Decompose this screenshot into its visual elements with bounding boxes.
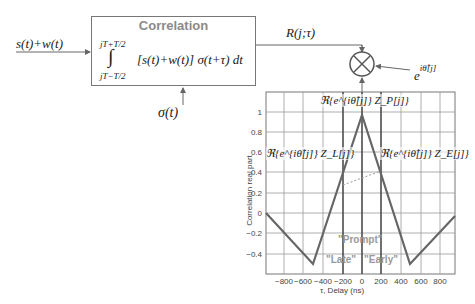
prompt-label: "Prompt" — [338, 234, 382, 245]
late-label: "Late" — [326, 254, 356, 265]
svg-text:−600: −600 — [294, 277, 313, 286]
svg-text:0: 0 — [258, 209, 263, 218]
x-axis-label: τ, Delay (ns) — [320, 286, 364, 295]
svg-text:0: 0 — [360, 277, 365, 286]
output-line — [256, 45, 362, 51]
svg-text:−400: −400 — [314, 277, 333, 286]
y-axis-label: Correlation real part — [245, 136, 254, 246]
svg-text:800: 800 — [433, 277, 447, 286]
early-label: "Early" — [364, 254, 398, 265]
svg-text:200: 200 — [374, 277, 388, 286]
multiplier-icon — [350, 52, 374, 76]
early-equation: ℜ{e^{iθ̂[j]} Z_E[j]} — [380, 147, 469, 160]
svg-text:400: 400 — [394, 277, 408, 286]
prompt-equation: ℜ{e^{iθ̂[j]} Z_P[j]} — [320, 94, 409, 107]
svg-text:−0.4: −0.4 — [246, 250, 262, 259]
phase-arrow — [376, 66, 410, 70]
svg-text:600: 600 — [414, 277, 428, 286]
late-equation: ℜ{e^{iθ̂[j]} Z_L[j]} — [266, 147, 354, 160]
svg-text:1: 1 — [258, 108, 263, 117]
svg-text:−200: −200 — [334, 277, 353, 286]
svg-text:−800: −800 — [275, 277, 294, 286]
